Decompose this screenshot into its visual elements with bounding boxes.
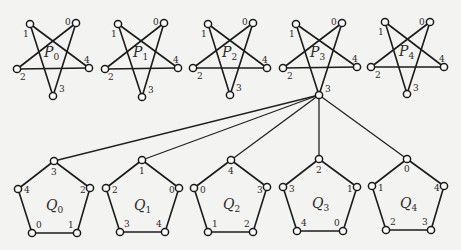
vertex-P4-2 bbox=[367, 63, 374, 70]
vertex-label: 0 bbox=[419, 17, 425, 27]
vertex-label: 1 bbox=[289, 29, 295, 39]
vertex-P4-3 bbox=[403, 90, 410, 97]
pentagon-edge bbox=[407, 159, 444, 186]
star-edge bbox=[283, 67, 357, 68]
graph-label-Q4: Q4 bbox=[400, 195, 417, 213]
vertex-label: 1 bbox=[68, 220, 74, 230]
vertex-label: 0 bbox=[331, 17, 337, 27]
vertex-P2-2 bbox=[189, 64, 196, 71]
vertex-Q4-1 bbox=[368, 182, 375, 189]
vertex-label: 4 bbox=[301, 218, 307, 228]
pentagon-edge bbox=[54, 161, 90, 188]
vertex-Q0-3 bbox=[50, 157, 57, 164]
graph-diagram: 01234P001234P101234P201234P301234P432104… bbox=[0, 0, 461, 250]
graph-label-Q3: Q3 bbox=[312, 195, 329, 213]
vertex-P1-4 bbox=[174, 64, 181, 71]
vertex-Q2-3 bbox=[263, 183, 270, 190]
pentagon-edge bbox=[142, 160, 179, 188]
vertex-Q4-0 bbox=[403, 155, 410, 162]
vertex-label: 0 bbox=[65, 17, 71, 27]
vertex-label: 3 bbox=[289, 184, 295, 194]
vertex-label: 3 bbox=[59, 84, 65, 94]
star-edge bbox=[30, 24, 53, 96]
vertex-label: 1 bbox=[347, 184, 353, 194]
vertex-P3-2 bbox=[279, 64, 286, 71]
vertex-P3-4 bbox=[353, 63, 360, 70]
vertex-label: 4 bbox=[156, 219, 162, 229]
vertex-Q1-0 bbox=[175, 184, 182, 191]
vertex-label: 4 bbox=[24, 185, 30, 195]
pentagon-edge bbox=[194, 160, 231, 188]
vertex-P0-1 bbox=[26, 20, 33, 27]
vertex-label: 4 bbox=[262, 55, 268, 65]
vertex-label: 1 bbox=[139, 166, 145, 176]
vertex-Q3-1 bbox=[353, 183, 360, 190]
pentagon-edge bbox=[231, 160, 267, 187]
vertex-P0-0 bbox=[72, 19, 79, 26]
vertex-P2-4 bbox=[263, 64, 270, 71]
star-edge bbox=[118, 24, 142, 97]
vertex-Q2-4 bbox=[227, 156, 234, 163]
vertex-Q1-4 bbox=[161, 228, 168, 235]
vertex-label: 2 bbox=[244, 219, 250, 229]
vertex-Q1-3 bbox=[116, 228, 123, 235]
star-edge bbox=[208, 24, 267, 68]
vertex-label: 0 bbox=[404, 164, 410, 174]
vertex-Q4-2 bbox=[382, 226, 389, 233]
vertex-label: 4 bbox=[84, 55, 90, 65]
vertex-P0-3 bbox=[49, 92, 56, 99]
vertex-label: 4 bbox=[434, 183, 440, 193]
hub-links-layer bbox=[54, 95, 407, 161]
vertex-label: 2 bbox=[390, 217, 396, 227]
vertex-P3-3 bbox=[315, 91, 322, 98]
graph-label-P3: P3 bbox=[309, 44, 325, 62]
vertex-P1-1 bbox=[114, 20, 121, 27]
hub-link-edge bbox=[142, 95, 319, 160]
vertex-label: 3 bbox=[148, 85, 154, 95]
vertex-label: 2 bbox=[108, 72, 114, 82]
vertex-label: 1 bbox=[111, 29, 117, 39]
vertex-P2-0 bbox=[249, 19, 256, 26]
vertex-P2-3 bbox=[226, 91, 233, 98]
vertex-label: 4 bbox=[352, 54, 358, 64]
graph-label-P1: P1 bbox=[132, 44, 148, 62]
vertex-label: 3 bbox=[413, 83, 419, 93]
star-edge bbox=[296, 24, 357, 67]
vertex-Q3-2 bbox=[315, 155, 322, 162]
vertex-P3-1 bbox=[292, 20, 299, 27]
vertex-Q1-1 bbox=[138, 156, 145, 163]
vertex-label: 4 bbox=[173, 55, 179, 65]
graph-label-P0: P0 bbox=[43, 44, 59, 62]
vertex-label: 0 bbox=[153, 17, 159, 27]
pentagon-edge bbox=[319, 159, 357, 187]
vertex-label: 0 bbox=[334, 218, 340, 228]
vertex-Q2-0 bbox=[190, 184, 197, 191]
vertex-label: 3 bbox=[325, 84, 331, 94]
vertex-label: 3 bbox=[257, 185, 263, 195]
graph-label-Q1: Q1 bbox=[134, 197, 151, 215]
vertex-P1-0 bbox=[160, 19, 167, 26]
vertex-label: 2 bbox=[112, 185, 118, 195]
vertex-Q4-4 bbox=[440, 182, 447, 189]
vertex-P1-3 bbox=[138, 93, 145, 100]
star-edge bbox=[385, 22, 444, 67]
vertex-Q2-2 bbox=[249, 228, 256, 235]
pentagon-edge bbox=[283, 159, 319, 187]
vertex-Q1-2 bbox=[102, 184, 109, 191]
vertex-label: 3 bbox=[51, 167, 57, 177]
vertex-Q0-4 bbox=[14, 185, 21, 192]
vertex-label: 2 bbox=[197, 71, 203, 81]
vertex-label: 2 bbox=[287, 71, 293, 81]
hub-link-edge bbox=[231, 95, 319, 160]
vertex-label: 1 bbox=[378, 183, 384, 193]
pentagon-edge bbox=[372, 159, 407, 186]
vertex-Q3-3 bbox=[279, 183, 286, 190]
star-edge bbox=[30, 24, 89, 68]
vertex-label: 2 bbox=[80, 185, 86, 195]
vertex-label: 3 bbox=[236, 83, 242, 93]
vertex-label: 2 bbox=[316, 165, 322, 175]
pentagon-edge bbox=[106, 160, 142, 188]
vertex-label: 1 bbox=[201, 29, 207, 39]
vertex-Q3-4 bbox=[293, 227, 300, 234]
vertex-label: 0 bbox=[242, 17, 248, 27]
